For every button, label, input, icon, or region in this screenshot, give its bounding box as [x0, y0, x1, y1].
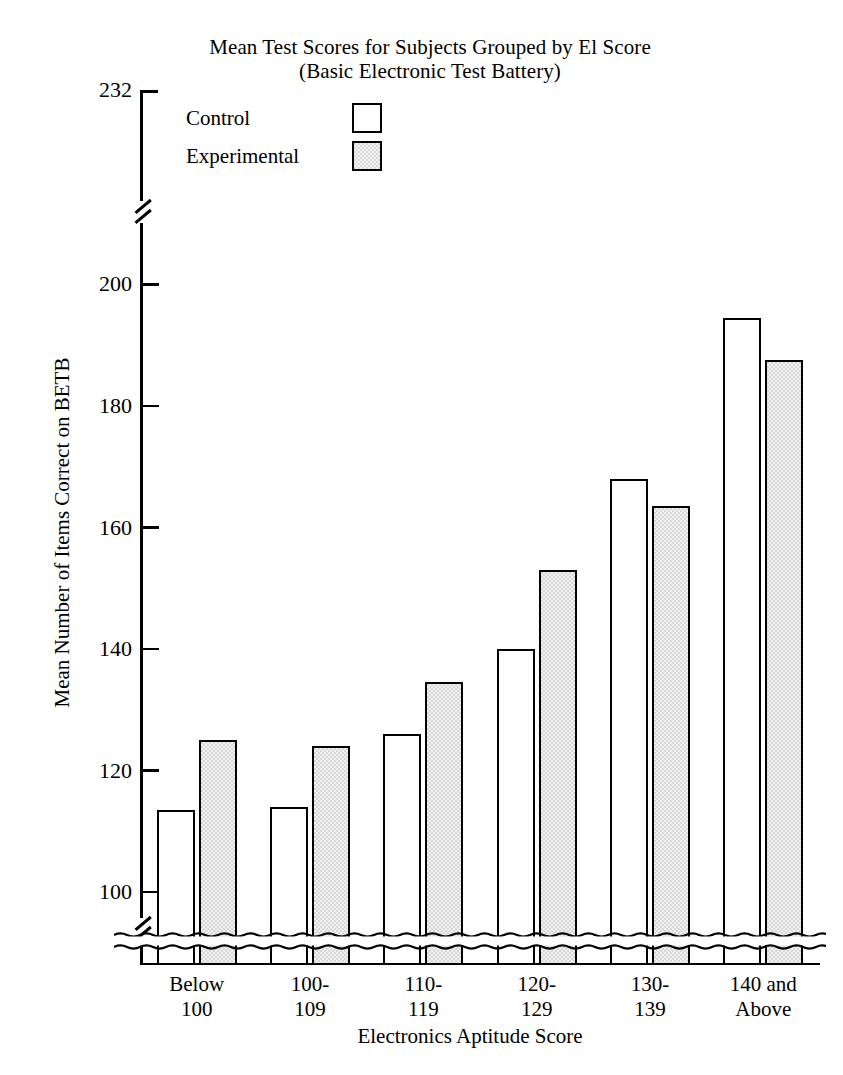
x-axis-tick-label-line: Above	[707, 997, 820, 1022]
x-axis-tick-label-6: 140 andAbove	[707, 972, 820, 1022]
x-axis-tick-label-line: 119	[367, 997, 480, 1022]
x-axis-tick-label-2: 100-109	[253, 972, 366, 1022]
x-axis-tick-label-line: 130-	[593, 972, 706, 997]
x-axis-tick-label-5: 130-139	[593, 972, 706, 1022]
x-axis-tick-label-line: 100	[140, 997, 253, 1022]
chart-title: Mean Test Scores for Subjects Grouped by…	[120, 36, 740, 83]
y-axis-tick-label: 180	[99, 395, 132, 417]
x-axis-tick-label-line: 140 and	[707, 972, 820, 997]
x-axis-tick-label-line: Below	[140, 972, 253, 997]
bar-control-1	[157, 810, 195, 965]
x-axis-tick-label-line: 120-	[480, 972, 593, 997]
bar-control-3	[383, 734, 421, 965]
bar-experimental-4	[539, 570, 577, 965]
bars-layer	[140, 90, 820, 965]
y-axis-tick-label: 200	[99, 273, 132, 295]
bar-control-4	[497, 649, 535, 965]
x-axis-tick-labels: Below100100-109110-119120-129130-139140 …	[140, 972, 820, 1026]
plot-area: 100120140160180200232	[140, 90, 820, 965]
bar-experimental-3	[425, 682, 463, 965]
y-axis-title: Mean Number of Items Correct on BETB	[50, 303, 75, 763]
x-axis-tick-label-line: 100-	[253, 972, 366, 997]
y-axis-tick-label: 100	[99, 881, 132, 903]
y-axis-tick-label: 120	[99, 760, 132, 782]
bar-experimental-1	[199, 740, 237, 965]
bar-control-2	[270, 807, 308, 965]
chart-figure: Mean Test Scores for Subjects Grouped by…	[0, 0, 843, 1075]
bar-experimental-6	[765, 360, 803, 965]
x-axis-baseline	[140, 963, 820, 966]
x-axis-tick-label-line: 110-	[367, 972, 480, 997]
y-axis-tick-label: 160	[99, 517, 132, 539]
x-axis-tick-label-line: 139	[593, 997, 706, 1022]
x-axis-title: Electronics Aptitude Score	[120, 1024, 820, 1049]
bar-experimental-5	[652, 506, 690, 965]
y-axis-tick-label: 232	[99, 79, 132, 101]
bar-experimental-2	[312, 746, 350, 965]
x-axis-tick-label-1: Below100	[140, 972, 253, 1022]
x-axis-tick-label-3: 110-119	[367, 972, 480, 1022]
chart-title-line1: Mean Test Scores for Subjects Grouped by…	[120, 36, 740, 60]
x-axis-tick-label-line: 109	[253, 997, 366, 1022]
bar-control-6	[723, 318, 761, 965]
chart-title-line2: (Basic Electronic Test Battery)	[120, 60, 740, 84]
bar-control-5	[610, 479, 648, 965]
x-axis-tick-label-line: 129	[480, 997, 593, 1022]
y-axis-tick-label: 140	[99, 638, 132, 660]
x-axis-tick-label-4: 120-129	[480, 972, 593, 1022]
